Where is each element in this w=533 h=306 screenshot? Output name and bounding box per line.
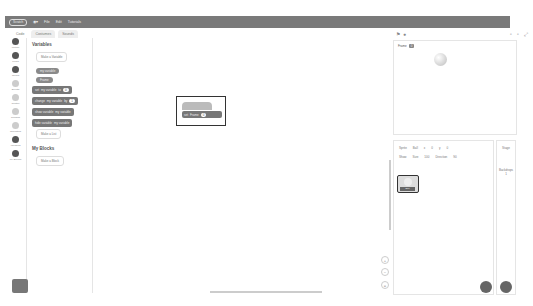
horizontal-scrollbar[interactable]	[210, 291, 322, 293]
stop-icon[interactable]: ●	[403, 31, 406, 37]
add-extension-button[interactable]	[12, 279, 28, 293]
green-flag-icon[interactable]: ⚑	[396, 31, 400, 37]
category-variables[interactable]: Variables	[5, 136, 26, 147]
category-sensing[interactable]: Sensing	[5, 108, 26, 119]
sprite-info-pane: SpriteBallx0y0 ShowSize100Direction90 Ba…	[393, 140, 494, 295]
block-palette: Variables Make a Variable my variable Fr…	[28, 38, 93, 293]
zoom-in-button[interactable]: +	[381, 256, 389, 264]
tab-costumes[interactable]: Costumes	[31, 30, 55, 38]
sprite-name-input[interactable]: Ball	[413, 146, 418, 150]
category-menu: Motion Looks Sound Events Control Sensin…	[5, 38, 27, 293]
add-sprite-button[interactable]	[480, 281, 492, 293]
category-motion[interactable]: Motion	[5, 38, 26, 49]
menu-bar: Scratch ◉▾ File Edit Tutorials	[5, 16, 510, 28]
category-looks[interactable]: Looks	[5, 52, 26, 63]
variables-heading: Variables	[32, 42, 92, 47]
frame-reporter[interactable]: Frame	[36, 77, 53, 83]
zoom-reset-button[interactable]: =	[381, 281, 389, 289]
make-variable-button[interactable]: Make a Variable	[36, 52, 67, 62]
fullscreen-icon[interactable]: ⤢	[524, 31, 528, 38]
zoom-out-button[interactable]: −	[381, 268, 389, 276]
when-flag-clicked-block[interactable]	[182, 102, 212, 110]
editor-tabs: Code Costumes Sounds	[12, 30, 78, 38]
category-my-blocks[interactable]: My Blocks	[5, 150, 26, 161]
show-variable-block[interactable]: show variablemy variable	[32, 108, 74, 116]
hide-variable-block[interactable]: hide variablemy variable	[32, 119, 72, 127]
set-frame-block[interactable]: setFrame0	[182, 111, 222, 118]
set-variable-block[interactable]: setmy variableto0	[32, 86, 72, 94]
tab-code[interactable]: Code	[12, 30, 28, 38]
small-stage-icon[interactable]: ▫	[510, 31, 512, 37]
category-events[interactable]: Events	[5, 80, 26, 91]
category-sound[interactable]: Sound	[5, 66, 26, 77]
menu-file[interactable]: File	[44, 20, 50, 24]
menu-tutorials[interactable]: Tutorials	[68, 20, 81, 24]
globe-icon[interactable]: ◉▾	[33, 20, 38, 24]
y-input[interactable]: 0	[447, 146, 449, 150]
ball-sprite[interactable]	[434, 53, 447, 66]
script-stack[interactable]: setFrame0	[176, 96, 226, 126]
change-variable-block[interactable]: changemy variableby1	[32, 97, 78, 105]
scratch-logo[interactable]: Scratch	[9, 19, 27, 26]
vertical-scrollbar[interactable]	[389, 160, 391, 230]
tab-sounds[interactable]: Sounds	[58, 30, 78, 38]
make-block-button[interactable]: Make a Block	[36, 156, 64, 166]
size-input[interactable]: 100	[424, 155, 429, 159]
add-backdrop-button[interactable]	[500, 281, 512, 293]
variable-monitor: Frame0	[398, 44, 414, 48]
stage-canvas[interactable]: Frame0	[393, 40, 517, 135]
sprite-thumbnail[interactable]: Ball	[397, 175, 419, 193]
menu-edit[interactable]: Edit	[56, 20, 62, 24]
category-control[interactable]: Control	[5, 94, 26, 105]
stage-selector[interactable]: Stage Backdrops 1	[496, 140, 516, 295]
category-operators[interactable]: Operators	[5, 122, 26, 133]
make-list-button[interactable]: Make a List	[36, 129, 61, 139]
my-blocks-heading: My Blocks	[32, 146, 92, 151]
code-workspace[interactable]: setFrame0 + − =	[94, 38, 390, 293]
x-input[interactable]: 0	[431, 146, 433, 150]
large-stage-icon[interactable]: ▫	[517, 31, 519, 37]
direction-input[interactable]: 90	[453, 155, 456, 159]
